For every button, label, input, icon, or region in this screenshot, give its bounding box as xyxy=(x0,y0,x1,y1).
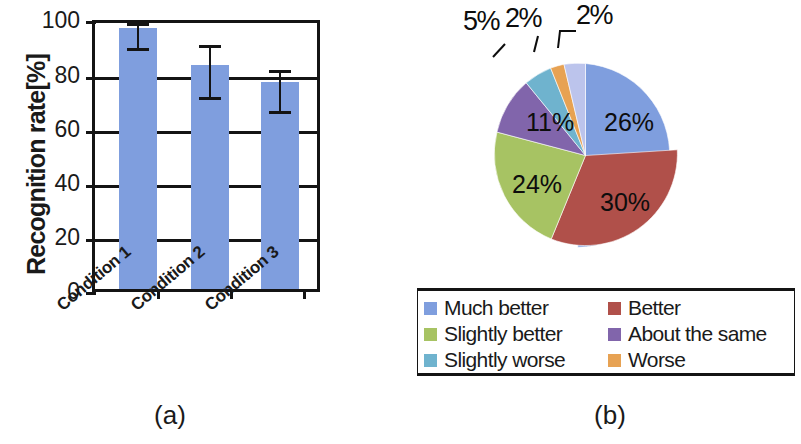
legend-swatch-icon-about-the-same xyxy=(608,328,621,341)
legend-item-slightly-better[interactable]: Slightly better xyxy=(424,321,565,347)
y-tick-label-60: 60 xyxy=(20,116,80,143)
legend-column-left: Much better Slightly better Slightly wor… xyxy=(424,295,565,373)
legend-label-slightly-worse: Slightly worse xyxy=(444,348,565,372)
legend-column-right: Better About the same Worse xyxy=(608,295,767,373)
pie-callout-worse: 2% xyxy=(505,3,541,34)
error-cap-top-2 xyxy=(199,45,221,48)
error-cap-top-1 xyxy=(127,23,149,26)
legend-label-much-better: Much better xyxy=(444,296,548,320)
figure-container: Recognition rate[%] xyxy=(0,0,801,444)
pie-value-better: 30% xyxy=(600,188,650,217)
error-cap-bottom-3 xyxy=(269,111,291,114)
y-tick-label-40: 40 xyxy=(20,170,80,197)
error-bar-condition-2 xyxy=(209,45,211,97)
pie-graphic: 26% 30% 24% 11% xyxy=(493,63,678,248)
pie-value-much-better: 26% xyxy=(604,108,654,137)
pie-value-slightly-better: 24% xyxy=(512,170,562,199)
legend-item-worse[interactable]: Worse xyxy=(608,347,767,373)
legend-swatch-icon-better xyxy=(608,302,621,315)
x-tick-3 xyxy=(303,289,306,299)
error-cap-top-3 xyxy=(269,70,291,73)
legend-swatch-icon-worse xyxy=(608,354,621,367)
pie-callout-slightly-worse: 5% xyxy=(463,6,499,37)
y-tick-20 xyxy=(86,239,96,242)
pie-value-about-the-same: 11% xyxy=(526,108,574,137)
legend-label-about-the-same: About the same xyxy=(628,322,767,346)
y-tick-100 xyxy=(86,21,96,24)
legend-swatch-icon-much-better xyxy=(424,302,437,315)
y-tick-label-100: 100 xyxy=(20,7,80,34)
legend-item-better[interactable]: Better xyxy=(608,295,767,321)
y-tick-60 xyxy=(86,131,96,134)
legend-item-much-better[interactable]: Much better xyxy=(424,295,565,321)
legend-swatch-icon-slightly-worse xyxy=(424,354,437,367)
pie-slices xyxy=(493,63,678,248)
error-bar-condition-3 xyxy=(279,70,281,111)
y-tick-80 xyxy=(86,77,96,80)
panel-a-bar-chart: Recognition rate[%] xyxy=(0,0,400,444)
legend-label-slightly-better: Slightly better xyxy=(444,322,562,346)
legend-swatch-icon-slightly-better xyxy=(424,328,437,341)
error-cap-bottom-1 xyxy=(127,48,149,51)
pie-legend: Much better Slightly better Slightly wor… xyxy=(417,288,795,376)
pie-callout-extra: 2% xyxy=(576,0,612,31)
legend-item-slightly-worse[interactable]: Slightly worse xyxy=(424,347,565,373)
y-tick-40 xyxy=(86,185,96,188)
panel-b-pie-chart: 26% 30% 24% 11% 5% 2% 2% Much better Sli… xyxy=(400,0,801,444)
caption-panel-b: (b) xyxy=(440,400,780,431)
legend-label-better: Better xyxy=(628,296,680,320)
legend-item-about-the-same[interactable]: About the same xyxy=(608,321,767,347)
error-cap-bottom-2 xyxy=(199,97,221,100)
y-tick-label-80: 80 xyxy=(20,62,80,89)
error-bar-condition-1 xyxy=(137,23,139,48)
caption-panel-a: (a) xyxy=(0,400,340,431)
y-tick-label-20: 20 xyxy=(20,224,80,251)
legend-label-worse: Worse xyxy=(628,348,685,372)
